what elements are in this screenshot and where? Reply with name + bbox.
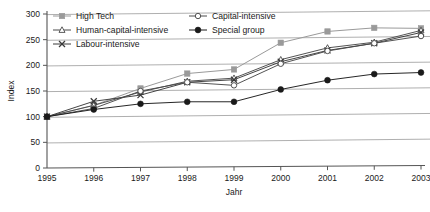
data-point (44, 114, 50, 120)
legend-marker (59, 13, 64, 18)
y-tick-label: 150 (26, 86, 40, 96)
x-tick-label: 1999 (225, 173, 244, 183)
x-axis-line (47, 166, 425, 169)
line-chart: 050100150200250300Index19951996199719981… (0, 0, 430, 212)
data-point (325, 29, 330, 34)
legend-item[interactable]: Human-capital-intensive (53, 25, 168, 35)
x-tick-label: 2002 (365, 173, 384, 183)
data-point (418, 33, 423, 38)
data-point (278, 61, 283, 66)
legend-item[interactable]: Labour-intensive (53, 39, 140, 49)
x-tick-label: 1998 (178, 173, 197, 183)
y-tick-label: 0 (35, 163, 40, 173)
legend-marker (195, 27, 201, 33)
x-tick-label: 1996 (84, 173, 103, 183)
data-point (138, 101, 144, 107)
data-point (278, 87, 284, 93)
data-point (184, 99, 190, 105)
y-tick-label: 50 (31, 137, 41, 147)
y-axis-title: Index (6, 80, 16, 102)
data-point (91, 107, 97, 113)
gridline (47, 113, 430, 117)
x-tick-label: 2000 (271, 173, 290, 183)
y-axis: 050100150200250300Index (6, 9, 47, 173)
y-tick-label: 100 (26, 112, 40, 122)
x-axis-title: Jahr (226, 187, 243, 197)
data-point (278, 40, 283, 45)
chart-container: 050100150200250300Index19951996199719981… (0, 0, 430, 212)
data-point (418, 70, 424, 76)
gridline (47, 139, 430, 143)
legend: High TechCapital-intensiveHuman-capital-… (53, 11, 276, 49)
data-point (185, 71, 190, 76)
y-tick-label: 200 (26, 60, 40, 70)
gridline (47, 88, 430, 92)
y-tick-label: 250 (26, 35, 40, 45)
gridline (47, 62, 430, 66)
x-tick-label: 1997 (131, 173, 150, 183)
data-point (231, 83, 236, 88)
legend-label: High Tech (76, 11, 114, 21)
legend-label: Human-capital-intensive (76, 25, 168, 35)
data-point (231, 67, 236, 72)
legend-item[interactable]: High Tech (53, 11, 114, 21)
legend-item[interactable]: Capital-intensive (189, 11, 276, 21)
legend-label: Labour-intensive (76, 39, 140, 49)
data-point (325, 77, 331, 83)
x-tick-label: 1995 (38, 173, 57, 183)
legend-item[interactable]: Special group (189, 25, 265, 35)
data-point (372, 25, 377, 30)
y-tick-label: 300 (26, 9, 40, 19)
legend-label: Capital-intensive (212, 11, 276, 21)
data-point (138, 88, 143, 93)
x-tick-label: 2003 (412, 173, 430, 183)
x-tick-label: 2001 (318, 173, 337, 183)
x-axis: 199519961997199819992000200120022003Jahr (38, 166, 430, 197)
legend-label: Special group (212, 25, 265, 35)
data-point (371, 71, 377, 77)
data-point (372, 41, 377, 46)
data-point (185, 80, 190, 85)
data-point (231, 99, 237, 105)
data-point (325, 48, 330, 53)
legend-marker (195, 13, 200, 18)
